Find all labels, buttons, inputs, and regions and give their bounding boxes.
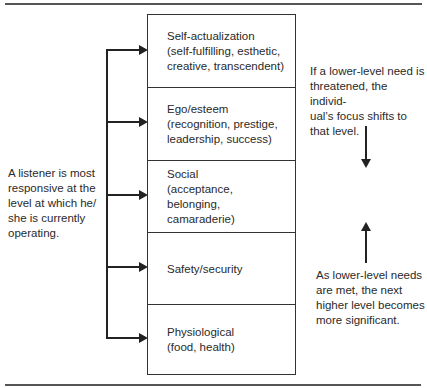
note-line: more significant. <box>316 313 426 328</box>
note-line: level at which he/ <box>8 196 103 211</box>
note-line: higher level becomes <box>316 298 426 313</box>
arrowhead-right-icon <box>139 262 148 272</box>
note-line: ual’s focus shifts to <box>310 109 426 124</box>
note-line: responsive at the <box>8 181 103 196</box>
arrowhead-right-icon <box>139 333 148 343</box>
note-line: A listener is most <box>8 166 103 181</box>
arrow-down-icon <box>361 159 371 168</box>
note-line: are met, the next <box>316 283 426 298</box>
right-top-note: If a lower-level need is threatened, the… <box>310 64 426 139</box>
note-line: As lower-level needs <box>316 268 426 283</box>
note-line: she is currently <box>8 211 103 226</box>
note-line: If a lower-level need is <box>310 64 426 79</box>
arrowhead-right-icon <box>139 190 148 200</box>
arrowhead-right-icon <box>139 45 148 55</box>
right-bottom-note: As lower-level needs are met, the next h… <box>316 268 426 328</box>
note-line: that level. <box>310 124 426 139</box>
arrowhead-right-icon <box>139 117 148 127</box>
left-note: A listener is most responsive at the lev… <box>8 166 103 241</box>
note-line: operating. <box>8 226 103 241</box>
arrow-up-icon <box>361 222 371 231</box>
note-line: threatened, the individ- <box>310 79 426 109</box>
